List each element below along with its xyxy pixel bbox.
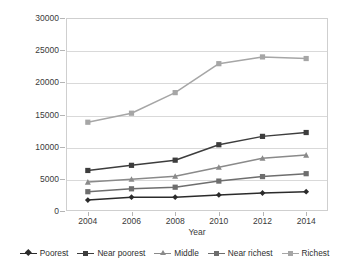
y-axis-tick-mark	[60, 211, 65, 212]
data-point-marker	[216, 178, 221, 183]
series-line	[88, 192, 306, 200]
legend-item-poorest[interactable]: Poorest	[20, 249, 69, 258]
legend-label: Near richest	[228, 249, 273, 257]
data-point-marker	[216, 192, 222, 198]
series-richest	[85, 54, 309, 124]
series-line	[88, 155, 306, 182]
data-point-marker	[173, 185, 178, 190]
x-axis-tick-label: 2014	[297, 217, 316, 226]
series-line	[88, 57, 306, 122]
legend-item-near-richest[interactable]: Near richest	[208, 249, 273, 258]
y-axis-tick-mark	[60, 147, 65, 148]
series-poorest	[85, 189, 309, 203]
y-axis-tick-mark	[60, 82, 65, 83]
legend-marker-icon	[20, 249, 37, 258]
y-axis-tick-mark	[60, 179, 65, 180]
legend-marker-icon	[208, 249, 225, 258]
y-axis-tick-label: 10000	[35, 143, 59, 152]
legend-item-richest[interactable]: Richest	[282, 249, 330, 258]
y-axis: 050001000015000200002500030000	[0, 0, 66, 220]
data-point-marker	[304, 171, 309, 176]
data-point-marker	[172, 194, 178, 200]
data-point-marker	[129, 194, 135, 200]
legend-label: Richest	[302, 249, 330, 257]
y-axis-tick-label: 15000	[35, 111, 59, 120]
series-middle	[85, 152, 309, 185]
y-axis-tick-mark	[60, 115, 65, 116]
data-point-marker	[129, 186, 134, 191]
series-near-richest	[85, 171, 309, 194]
data-point-marker	[173, 90, 178, 95]
y-axis-tick-label: 30000	[35, 14, 59, 23]
data-point-marker	[260, 134, 265, 139]
data-point-marker	[85, 197, 91, 203]
line-chart: 050001000015000200002500030000 200420062…	[0, 0, 349, 267]
y-axis-tick-label: 0	[54, 207, 59, 216]
y-axis-tick-label: 25000	[35, 46, 59, 55]
data-point-marker	[173, 158, 178, 163]
chart-legend: PoorestNear poorestMiddleNear richestRic…	[0, 243, 349, 263]
legend-item-near-poorest[interactable]: Near poorest	[77, 249, 145, 258]
series-line	[88, 133, 306, 171]
series-line	[88, 174, 306, 192]
data-point-marker	[304, 130, 309, 135]
series-layer	[66, 18, 328, 211]
data-point-marker	[303, 189, 309, 195]
legend-marker-icon	[77, 249, 94, 258]
x-axis-tick-label: 2008	[166, 217, 185, 226]
x-axis-tick-label: 2006	[122, 217, 141, 226]
y-axis-tick-mark	[60, 18, 65, 19]
data-point-marker	[129, 111, 134, 116]
legend-label: Poorest	[40, 249, 69, 257]
legend-item-middle[interactable]: Middle	[154, 249, 198, 258]
x-axis-tick-label: 2004	[78, 217, 97, 226]
legend-marker-icon	[282, 249, 299, 258]
data-point-marker	[260, 190, 266, 196]
data-point-marker	[85, 120, 90, 125]
y-axis-tick-label: 20000	[35, 78, 59, 87]
x-axis-tick-label: 2010	[209, 217, 228, 226]
data-point-marker	[85, 168, 90, 173]
data-point-marker	[216, 142, 221, 147]
legend-marker-icon	[154, 249, 171, 258]
data-point-marker	[85, 189, 90, 194]
legend-label: Middle	[174, 249, 198, 257]
data-point-marker	[216, 61, 221, 66]
y-axis-tick-label: 5000	[40, 175, 59, 184]
data-point-marker	[260, 54, 265, 59]
series-near-poorest	[85, 130, 309, 173]
data-point-marker	[304, 56, 309, 61]
data-point-marker	[129, 163, 134, 168]
y-axis-tick-mark	[60, 50, 65, 51]
legend-label: Near poorest	[97, 249, 145, 257]
x-axis: 200420062008201020122014	[66, 212, 328, 228]
x-axis-tick-label: 2012	[253, 217, 272, 226]
x-axis-title: Year	[66, 227, 328, 237]
data-point-marker	[260, 174, 265, 179]
